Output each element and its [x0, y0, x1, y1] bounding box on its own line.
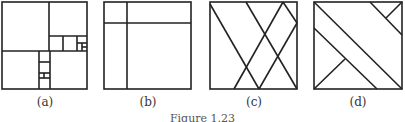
- panel-d-diagram: [314, 2, 402, 89]
- panel-a-label: (a): [25, 95, 65, 109]
- panel-d-label: (d): [338, 95, 378, 109]
- panel-b-label: (b): [128, 95, 168, 109]
- panel-a-diagram: [2, 2, 87, 89]
- panel-c-label: (c): [234, 95, 274, 109]
- panel-c-diagram: [210, 2, 297, 89]
- panel-b-diagram: [104, 2, 191, 89]
- figure-caption: Figure 1.23: [0, 112, 405, 122]
